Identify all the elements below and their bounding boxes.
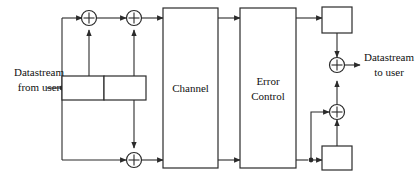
input-label-group: Datastream from user — [14, 66, 65, 93]
adder-top-right — [127, 11, 142, 26]
adder-top-left — [82, 11, 97, 26]
input-label-line2: from user — [18, 81, 61, 93]
decoder-register-top — [322, 7, 352, 33]
output-label-group: Datastream to user — [364, 51, 415, 78]
channel-block-label: Channel — [172, 82, 209, 94]
input-label-line1: Datastream — [14, 66, 65, 78]
output-label-line2: to user — [374, 66, 404, 78]
adder-output-lower — [330, 105, 345, 120]
adder-output-upper — [330, 58, 345, 73]
shift-register-cell-1 — [62, 76, 104, 100]
error-control-label-line1: Error — [256, 75, 280, 87]
error-control-block — [240, 8, 296, 168]
diagram-canvas: Datastream from user — [0, 0, 416, 175]
error-control-label-line2: Control — [251, 90, 285, 102]
output-label-line1: Datastream — [364, 51, 415, 63]
adder-bottom — [127, 153, 142, 168]
decoder-register-bottom — [322, 146, 352, 170]
block-diagram: Datastream from user — [0, 0, 416, 175]
shift-register-cell-2 — [104, 76, 146, 100]
